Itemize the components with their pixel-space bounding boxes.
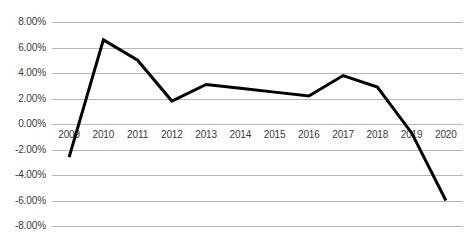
- y-axis-tick-label: 6.00%: [0, 43, 46, 53]
- y-axis-tick-label: 4.00%: [0, 68, 46, 78]
- y-axis-tick-label: 0.00%: [0, 119, 46, 129]
- x-axis-tick-label: 2018: [360, 130, 394, 140]
- x-axis-tick-label: 2020: [429, 130, 463, 140]
- x-axis-tick-label: 2011: [121, 130, 155, 140]
- line-chart: 8.00%6.00%4.00%2.00%0.00%-2.00%-4.00%-6.…: [0, 0, 471, 249]
- gridline: [52, 150, 463, 151]
- x-axis-tick-label: 2014: [223, 130, 257, 140]
- gridline: [52, 99, 463, 100]
- x-axis-tick-label: 2010: [86, 130, 120, 140]
- y-axis-tick-label: 8.00%: [0, 17, 46, 27]
- gridline: [52, 73, 463, 74]
- x-axis-tick-label: 2013: [189, 130, 223, 140]
- x-axis-tick-label: 2012: [155, 130, 189, 140]
- y-axis-tick-label: -8.00%: [0, 221, 46, 231]
- y-axis-tick-label: -2.00%: [0, 145, 46, 155]
- x-axis-tick-label: 2016: [292, 130, 326, 140]
- x-axis-tick-label: 2017: [326, 130, 360, 140]
- y-axis-tick-label: -4.00%: [0, 170, 46, 180]
- gridline: [52, 175, 463, 176]
- gridline: [52, 201, 463, 202]
- y-axis-tick-label: -6.00%: [0, 196, 46, 206]
- x-axis-tick-label: 2009: [52, 130, 86, 140]
- gridline: [52, 22, 463, 23]
- gridline: [52, 48, 463, 49]
- x-axis-tick-label: 2015: [258, 130, 292, 140]
- plot-area: 8.00%6.00%4.00%2.00%0.00%-2.00%-4.00%-6.…: [0, 0, 471, 249]
- x-axis-tick-label: 2019: [395, 130, 429, 140]
- y-axis-tick-label: 2.00%: [0, 94, 46, 104]
- gridline: [52, 226, 463, 227]
- gridline: [52, 124, 463, 125]
